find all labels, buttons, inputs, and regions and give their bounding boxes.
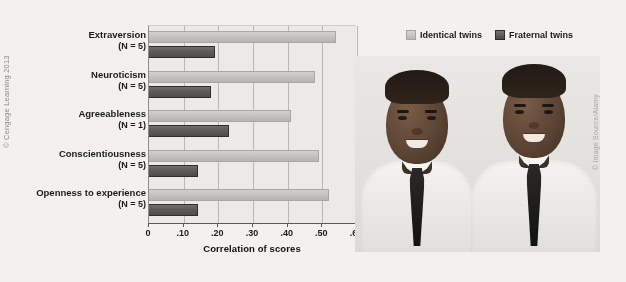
category-sample-size: (N = 5) xyxy=(59,160,146,170)
bar-group xyxy=(149,145,356,185)
figure-twin-personality-correlations: © Cengage Learning 2013 Extraversion(N =… xyxy=(0,0,626,282)
category-label-agreeableness: Agreeableness(N = 1) xyxy=(78,109,146,130)
x-tick xyxy=(321,223,322,227)
bar-identical-twins xyxy=(149,150,319,162)
brow-left xyxy=(514,104,526,107)
nose xyxy=(529,122,540,129)
x-tick xyxy=(217,223,218,227)
brow-right xyxy=(542,104,554,107)
x-tick xyxy=(287,223,288,227)
brow-left xyxy=(397,110,409,113)
bar-fraternal-twins xyxy=(149,86,211,98)
twin-left-figure xyxy=(361,80,473,252)
category-sample-size: (N = 5) xyxy=(36,199,146,209)
bar-group xyxy=(149,66,356,106)
smile xyxy=(406,140,428,148)
brow-right xyxy=(425,110,437,113)
twin-right-figure xyxy=(471,72,597,252)
bar-identical-twins xyxy=(149,71,315,83)
category-label-openness-to-experience: Openness to experience(N = 5) xyxy=(36,188,146,209)
eye-left xyxy=(398,116,407,120)
nose xyxy=(412,128,423,135)
eye-right xyxy=(544,110,553,114)
bar-identical-twins xyxy=(149,189,329,201)
hair xyxy=(502,64,566,98)
bar-group xyxy=(149,26,356,66)
bar-fraternal-twins xyxy=(149,204,198,216)
category-name: Agreeableness xyxy=(78,109,146,120)
category-name: Extraversion xyxy=(88,30,146,41)
eye-left xyxy=(515,110,524,114)
legend-swatch-identical xyxy=(406,30,416,40)
x-axis-title: Correlation of scores xyxy=(148,243,356,254)
legend-swatch-fraternal xyxy=(495,30,505,40)
x-tick-label: .20 xyxy=(211,228,224,238)
plot-area xyxy=(148,25,356,223)
bar-group xyxy=(149,184,356,224)
x-tick xyxy=(252,223,253,227)
smile xyxy=(523,134,545,142)
eye-right xyxy=(427,116,436,120)
category-sample-size: (N = 1) xyxy=(78,120,146,130)
category-name: Neuroticism xyxy=(91,70,146,81)
bar-fraternal-twins xyxy=(149,165,198,177)
publisher-credit: © Cengage Learning 2013 xyxy=(2,28,11,148)
category-name: Conscientiousness xyxy=(59,149,146,160)
x-tick-label: .10 xyxy=(176,228,189,238)
bar-identical-twins xyxy=(149,110,291,122)
category-name: Openness to experience xyxy=(36,188,146,199)
legend-label: Fraternal twins xyxy=(509,30,573,40)
x-tick-label: 0 xyxy=(145,228,150,238)
bar-identical-twins xyxy=(149,31,336,43)
category-sample-size: (N = 5) xyxy=(88,41,146,51)
legend-item: Identical twins xyxy=(406,30,482,40)
x-tick xyxy=(183,223,184,227)
chart-legend: Identical twinsFraternal twins xyxy=(406,30,573,40)
x-tick xyxy=(148,223,149,227)
twins-photograph xyxy=(355,56,600,252)
x-tick-label: .30 xyxy=(246,228,259,238)
hair xyxy=(385,70,449,104)
x-tick-label: .40 xyxy=(280,228,293,238)
bar-group xyxy=(149,105,356,145)
category-label-conscientiousness: Conscientiousness(N = 5) xyxy=(59,149,146,170)
photo-credit: © Image Source/Alamy xyxy=(592,50,599,170)
bar-fraternal-twins xyxy=(149,46,215,58)
legend-item: Fraternal twins xyxy=(495,30,573,40)
bar-fraternal-twins xyxy=(149,125,229,137)
category-label-extraversion: Extraversion(N = 5) xyxy=(88,30,146,51)
x-tick-label: .50 xyxy=(315,228,328,238)
x-axis: 0.10.20.30.40.50.60 xyxy=(148,223,356,224)
category-axis-labels: Extraversion(N = 5)Neuroticism(N = 5)Agr… xyxy=(14,25,146,223)
category-sample-size: (N = 5) xyxy=(91,81,146,91)
legend-label: Identical twins xyxy=(420,30,482,40)
category-label-neuroticism: Neuroticism(N = 5) xyxy=(91,70,146,91)
